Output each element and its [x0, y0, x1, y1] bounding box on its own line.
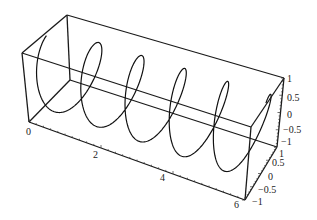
helix-path	[37, 36, 272, 172]
z-tick-label: 0	[287, 109, 292, 120]
box-edge	[22, 53, 29, 122]
helix-curve	[37, 36, 272, 172]
z-tick-label: 1	[287, 73, 292, 84]
z-tick-label: −0.5	[283, 124, 301, 135]
box-edge	[29, 80, 70, 122]
x-tick-label: 0	[26, 126, 31, 137]
z-tick-label: 0.5	[287, 92, 300, 103]
x-tick-label: 2	[93, 149, 98, 160]
box-edge	[67, 15, 284, 78]
box-edge	[22, 15, 67, 53]
y-tick-label: −0.5	[258, 184, 276, 195]
z-tick-label: −1	[281, 136, 292, 147]
box-edge	[22, 53, 251, 127]
box-back-edges	[29, 15, 277, 147]
x-tick-label: 4	[160, 172, 165, 183]
helix-3d-plot: 024610.50−0.5−110.50−0.5−1	[0, 0, 317, 220]
y-tick-label: −1	[252, 196, 263, 207]
y-tick-label: 0.5	[272, 157, 285, 168]
x-tick-label: 6	[234, 199, 239, 210]
y-tick-label: 0	[268, 171, 273, 182]
box-edge	[67, 15, 70, 80]
